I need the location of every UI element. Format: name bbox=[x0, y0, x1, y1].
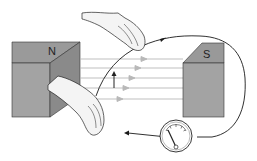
galvanometer bbox=[160, 120, 192, 152]
north-pole-label: N bbox=[48, 45, 56, 57]
south-magnet-front-face bbox=[183, 63, 224, 117]
south-magnet: S bbox=[183, 43, 224, 117]
field-arrow-icon bbox=[141, 57, 147, 62]
motion-arrow-up-icon bbox=[112, 71, 117, 88]
current-arrow-icon bbox=[124, 131, 129, 136]
north-magnet-front-face bbox=[12, 63, 50, 117]
south-pole-label: S bbox=[203, 48, 210, 60]
field-arrow-icon bbox=[117, 97, 123, 102]
field-arrow-icon bbox=[129, 76, 135, 81]
field-lines bbox=[80, 57, 183, 102]
field-arrow-icon bbox=[123, 86, 129, 91]
wire-segment-in-field bbox=[96, 46, 140, 96]
electromagnetic-induction-diagram: N S bbox=[0, 0, 257, 161]
top-hand-icon bbox=[82, 12, 145, 50]
current-arrow-icon bbox=[160, 38, 166, 43]
field-arrow-icon bbox=[135, 66, 141, 71]
